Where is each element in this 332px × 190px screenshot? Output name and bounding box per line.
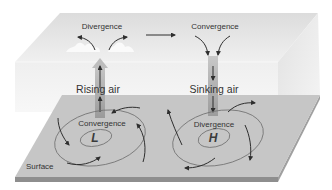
atmosphere-diagram: Divergence Convergence Rising air Sinkin… bbox=[0, 0, 332, 190]
high-pressure-symbol: H bbox=[209, 131, 218, 145]
surface-label: Surface bbox=[26, 162, 54, 171]
surface-front-edge bbox=[15, 177, 278, 182]
upper-convergence-label: Convergence bbox=[191, 22, 239, 31]
low-pressure-symbol: L bbox=[91, 131, 98, 145]
rising-air-label: Rising air bbox=[76, 83, 120, 95]
sinking-air-label: Sinking air bbox=[189, 83, 239, 95]
surface-slab bbox=[15, 95, 320, 182]
box-top-face bbox=[15, 13, 318, 62]
surface-divergence-label: Divergence bbox=[194, 120, 235, 129]
surface-top bbox=[15, 95, 320, 177]
upper-divergence-label: Divergence bbox=[82, 22, 123, 31]
surface-convergence-label: Convergence bbox=[78, 119, 126, 128]
